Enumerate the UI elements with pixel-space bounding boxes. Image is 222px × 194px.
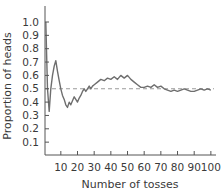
x-tick-label: 50 — [121, 161, 134, 173]
proportion-of-heads-chart: 0.10.20.30.40.50.60.70.80.91.0 102030405… — [0, 0, 222, 194]
y-tick-label: 0.4 — [22, 96, 39, 108]
y-tick-label: 0.3 — [22, 109, 39, 121]
y-tick-label: 0.7 — [22, 56, 39, 68]
data-series — [46, 22, 211, 111]
y-tick-label: 1.0 — [22, 16, 39, 28]
series-line — [46, 22, 211, 111]
y-tick-label: 0.5 — [22, 82, 39, 94]
x-tick-label: 90 — [188, 161, 201, 173]
x-tick-label: 70 — [154, 161, 167, 173]
x-tick-label: 60 — [137, 161, 150, 173]
x-tick-label: 40 — [104, 161, 117, 173]
x-tick-label: 100 — [201, 161, 221, 173]
y-tick-label: 0.2 — [22, 122, 39, 134]
y-tick-label: 0.9 — [22, 29, 39, 41]
x-tick-label: 30 — [87, 161, 100, 173]
x-tick-label: 10 — [54, 161, 67, 173]
x-axis-ticks: 102030405060708090100 — [54, 151, 221, 173]
x-axis-label: Number of tosses — [82, 178, 179, 191]
y-tick-label: 0.1 — [22, 136, 39, 148]
x-tick-label: 80 — [171, 161, 184, 173]
y-axis-label: Proportion of heads — [1, 32, 14, 140]
y-tick-label: 0.6 — [22, 69, 39, 81]
axes — [45, 6, 216, 155]
x-tick-label: 20 — [71, 161, 84, 173]
y-tick-label: 0.8 — [22, 42, 39, 54]
